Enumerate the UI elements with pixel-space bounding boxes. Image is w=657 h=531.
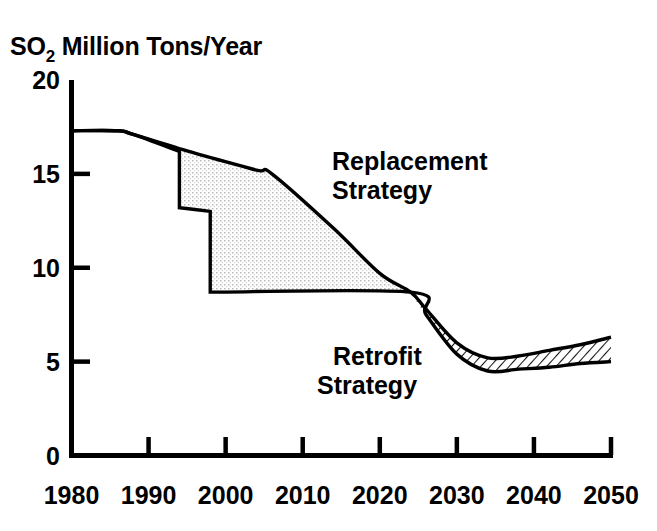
x-tick-label-2020: 2020 xyxy=(352,481,408,509)
replacement-label-line2: Strategy xyxy=(332,176,432,204)
chart-axis-title: SO2 Million Tons/Year xyxy=(10,32,263,66)
x-tick-label-2050: 2050 xyxy=(583,481,639,509)
y-tick-label-10: 10 xyxy=(32,254,60,282)
y-tick-label-20: 20 xyxy=(32,66,60,94)
retrofit-label-line1: Retrofit xyxy=(333,342,423,370)
x-axis-tick-labels: 19801990200020102020203020402050 xyxy=(44,481,639,509)
retrofit-label-line2: Strategy xyxy=(317,371,417,399)
so2-emissions-area-chart: SO2 Million Tons/Year 20151050 198019902… xyxy=(0,0,657,531)
x-tick-label-2040: 2040 xyxy=(506,481,562,509)
replacement-label-line1: Replacement xyxy=(332,147,488,175)
y-axis-tick-labels: 20151050 xyxy=(32,66,60,470)
x-tick-label-1980: 1980 xyxy=(44,481,100,509)
annotation-retrofit: Retrofit Strategy xyxy=(317,342,423,399)
x-tick-label-2000: 2000 xyxy=(198,481,254,509)
x-tick-label-2030: 2030 xyxy=(429,481,485,509)
x-tick-label-2010: 2010 xyxy=(275,481,331,509)
x-tick-label-1990: 1990 xyxy=(121,481,177,509)
y-tick-label-0: 0 xyxy=(46,442,60,470)
y-tick-label-15: 15 xyxy=(32,160,60,188)
chart-figure: SO2 Million Tons/Year 20151050 198019902… xyxy=(0,0,657,531)
y-tick-label-5: 5 xyxy=(46,348,60,376)
